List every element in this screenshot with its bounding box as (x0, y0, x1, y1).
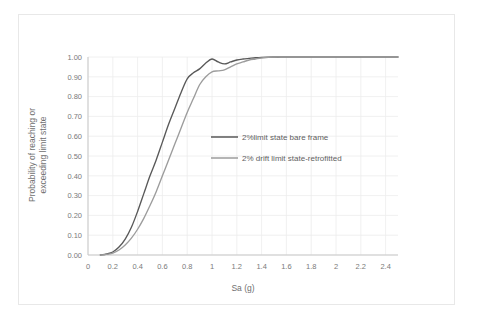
fragility-curve-chart: 0.000.100.200.300.400.500.600.700.800.90… (0, 0, 478, 319)
x-axis-title: Sa (g) (231, 283, 254, 293)
legend-label-0: 2%limit state bare frame (242, 133, 329, 142)
y-tick-label: 0.70 (67, 112, 82, 121)
chart-figure: 0.000.100.200.300.400.500.600.700.800.90… (0, 0, 478, 319)
y-tick-label: 0.50 (67, 152, 82, 161)
legend-label-1: 2% drift limit state-retrofitted (242, 154, 342, 163)
x-tick-label: 1 (210, 262, 214, 271)
x-tick-label: 1.4 (256, 262, 266, 271)
x-tick-label: 0.2 (108, 262, 118, 271)
y-tick-label: 0.90 (67, 73, 82, 82)
x-tick-label: 2.2 (356, 262, 366, 271)
x-axis-tick-labels: 00.20.40.60.811.21.41.61.822.22.4 (86, 262, 391, 271)
x-tick-label: 2.4 (380, 262, 390, 271)
y-axis-tick-labels: 0.000.100.200.300.400.500.600.700.800.90… (67, 53, 82, 260)
x-tick-label: 0 (86, 262, 90, 271)
y-tick-label: 0.80 (67, 92, 82, 101)
x-tick-label: 2 (334, 262, 338, 271)
y-axis-title-line1: Probability of reaching or (27, 108, 37, 202)
y-tick-label: 0.20 (67, 211, 82, 220)
x-tick-label: 1.8 (306, 262, 316, 271)
y-axis-title-line2: exceeding limit state (38, 116, 48, 193)
chart-legend: 2%limit state bare frame2% drift limit s… (211, 133, 342, 163)
y-tick-label: 0.30 (67, 191, 82, 200)
x-tick-label: 0.4 (132, 262, 142, 271)
y-tick-label: 0.00 (67, 251, 82, 260)
x-tick-label: 0.6 (157, 262, 167, 271)
x-tick-label: 1.2 (232, 262, 242, 271)
y-tick-label: 0.40 (67, 172, 82, 181)
y-tick-label: 1.00 (67, 53, 82, 62)
y-tick-label: 0.10 (67, 231, 82, 240)
y-tick-label: 0.60 (67, 132, 82, 141)
x-tick-label: 1.6 (281, 262, 291, 271)
x-tick-label: 0.8 (182, 262, 192, 271)
